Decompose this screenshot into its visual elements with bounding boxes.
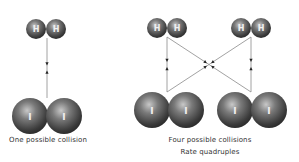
caption-one-collision: One possible collision <box>0 136 96 144</box>
i2-molecule: II <box>217 92 287 128</box>
arrowhead-icon <box>165 59 168 62</box>
arrowhead-icon <box>249 67 252 70</box>
atom-label: I <box>267 106 270 116</box>
h2-molecule: HH <box>231 18 271 38</box>
atom-label: H <box>174 24 181 33</box>
atom-label: H <box>33 25 40 34</box>
arrowhead-icon <box>165 67 168 70</box>
arrowhead-icon <box>45 71 48 74</box>
atom-label: H <box>238 24 245 33</box>
i2-molecule: II <box>12 98 82 134</box>
collision-arrows <box>45 59 252 74</box>
h2-molecule: HH <box>147 18 187 38</box>
molecules: HHIIHHHHIIII <box>12 18 287 134</box>
atom-label: I <box>184 106 187 116</box>
arrowhead-icon <box>45 62 48 65</box>
collision-lines <box>47 37 251 98</box>
atom-label: I <box>28 112 31 122</box>
atom-label: H <box>53 25 60 34</box>
h2-molecule: HH <box>26 19 66 39</box>
atom-label: I <box>62 112 65 122</box>
atom-label: I <box>150 106 153 116</box>
arrowhead-icon <box>249 59 252 62</box>
atom-label: I <box>233 106 236 116</box>
caption-rate-quadruples: Rate quadruples <box>160 148 260 156</box>
atom-label: H <box>258 24 265 33</box>
caption-four-collisions: Four possible collisions <box>160 136 260 144</box>
i2-molecule: II <box>134 92 204 128</box>
atom-label: H <box>154 24 161 33</box>
